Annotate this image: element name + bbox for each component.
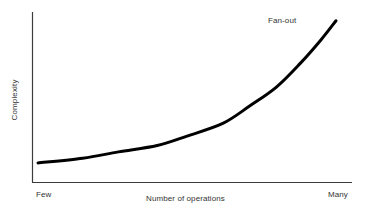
plot-area xyxy=(0,0,370,218)
x-axis-label: Number of operations xyxy=(146,195,225,203)
series-line-fan-out xyxy=(38,21,336,163)
x-axis-tick-label-many: Many xyxy=(328,191,348,199)
chart-figure: Complexity Number of operations Few Many… xyxy=(0,0,370,218)
series-annotation-fan-out: Fan-out xyxy=(268,17,296,25)
x-axis-tick-label-few: Few xyxy=(36,191,51,199)
y-axis-label-text: Complexity xyxy=(11,79,19,120)
y-axis-label: Complexity xyxy=(9,64,21,136)
